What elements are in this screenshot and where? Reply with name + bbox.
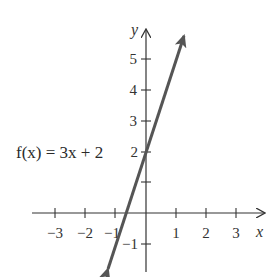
x-tick-label: 3 — [232, 225, 240, 241]
x-axis-label: x — [255, 223, 263, 240]
y-tick-label: 4 — [130, 82, 138, 98]
function-graph: −3 −2 −1 1 2 3 5 4 3 2 −1 x y f(x) = 3x … — [0, 0, 276, 277]
x-tick-label: −2 — [77, 225, 93, 241]
y-axis-label: y — [129, 21, 139, 39]
x-tick-label: 1 — [172, 225, 180, 241]
x-tick-label: 2 — [202, 225, 210, 241]
y-tick-label: −1 — [122, 236, 138, 252]
y-tick-label: 3 — [130, 113, 138, 129]
x-tick-label: −3 — [47, 225, 63, 241]
y-tick-label: 5 — [130, 51, 138, 67]
y-tick-label: 2 — [131, 144, 139, 160]
function-label: f(x) = 3x + 2 — [16, 143, 103, 162]
